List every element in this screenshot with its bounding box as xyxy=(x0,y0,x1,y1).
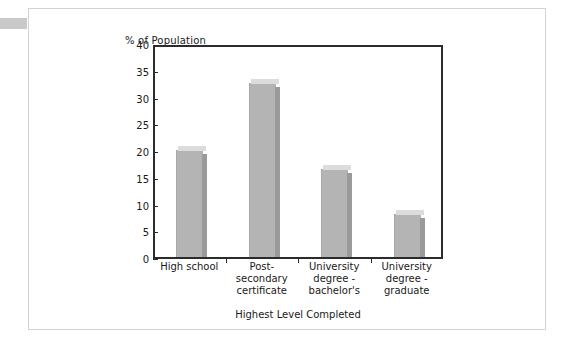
y-tick-label: 0 xyxy=(125,254,149,265)
bar-top-face xyxy=(178,146,206,151)
y-tick-label: 5 xyxy=(125,227,149,238)
bar xyxy=(249,83,280,257)
x-tick-label: Universitydegree -graduate xyxy=(368,261,446,297)
bar-chart: % of Population 0510152025303540 High sc… xyxy=(29,9,547,331)
bar xyxy=(176,150,207,257)
bar-side-face xyxy=(420,218,425,257)
page-background: % of Population 0510152025303540 High sc… xyxy=(0,0,574,346)
x-tick-mark xyxy=(226,259,227,263)
y-tick-label: 35 xyxy=(125,66,149,77)
bar-top-face xyxy=(251,79,279,84)
y-tick-mark xyxy=(153,152,158,153)
bar-side-face xyxy=(202,154,207,257)
x-tick-label: Universitydegree -bachelor's xyxy=(295,261,373,297)
bar-front-face xyxy=(249,83,276,257)
y-tick-label: 30 xyxy=(125,93,149,104)
x-tick-label: Post-secondarycertificate xyxy=(223,261,301,297)
y-tick-label: 10 xyxy=(125,200,149,211)
x-axis-tick-labels: High schoolPost-secondarycertificateUniv… xyxy=(153,261,443,309)
bar-side-face xyxy=(347,173,352,257)
plot-frame xyxy=(153,45,443,259)
x-axis-title: Highest Level Completed xyxy=(153,309,443,320)
y-tick-label: 20 xyxy=(125,147,149,158)
y-tick-mark xyxy=(153,45,158,46)
corner-tab-marker xyxy=(0,18,27,29)
y-tick-mark xyxy=(153,232,158,233)
y-tick-mark xyxy=(153,259,158,260)
y-tick-mark xyxy=(153,125,158,126)
bar-front-face xyxy=(394,214,421,257)
bar xyxy=(394,214,425,257)
y-tick-mark xyxy=(153,206,158,207)
y-tick-label: 25 xyxy=(125,120,149,131)
plot-area xyxy=(155,47,441,257)
x-tick-label: High school xyxy=(150,261,228,273)
y-tick-label: 40 xyxy=(125,40,149,51)
bar-front-face xyxy=(321,169,348,257)
y-tick-mark xyxy=(153,179,158,180)
chart-card: % of Population 0510152025303540 High sc… xyxy=(28,8,546,330)
bar-top-face xyxy=(396,210,424,215)
y-axis-tick-labels: 0510152025303540 xyxy=(123,45,149,259)
bar-top-face xyxy=(323,165,351,170)
bar-front-face xyxy=(176,150,203,257)
bar-side-face xyxy=(275,87,280,257)
y-tick-mark xyxy=(153,72,158,73)
x-tick-mark xyxy=(298,259,299,263)
bar xyxy=(321,169,352,257)
y-tick-mark xyxy=(153,99,158,100)
y-tick-label: 15 xyxy=(125,173,149,184)
x-tick-mark xyxy=(371,259,372,263)
